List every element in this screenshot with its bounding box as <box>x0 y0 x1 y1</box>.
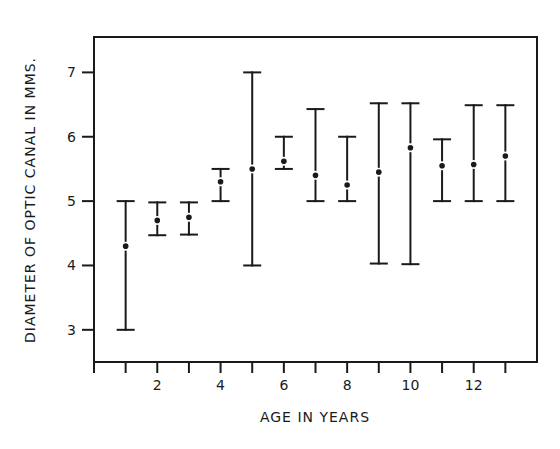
x-tick-label: 2 <box>153 377 162 393</box>
x-tick-label: 8 <box>343 377 352 393</box>
y-axis-title: DIAMETER OF OPTIC CANAL IN MMS. <box>22 57 38 343</box>
mean-marker <box>471 162 477 168</box>
error-bar <box>149 202 165 235</box>
x-axis-title: AGE IN YEARS <box>260 409 370 425</box>
error-bar <box>181 202 197 234</box>
y-tick-label: 4 <box>67 257 76 273</box>
x-tick-label: 12 <box>465 377 483 393</box>
mean-marker <box>218 179 224 185</box>
y-axis-ticks: 34567 <box>67 64 94 337</box>
mean-marker <box>439 163 445 169</box>
mean-marker <box>281 158 287 164</box>
mean-marker <box>249 166 255 172</box>
mean-marker <box>154 218 160 224</box>
error-bar <box>276 137 292 169</box>
mean-marker <box>123 243 129 249</box>
y-tick-label: 5 <box>67 193 76 209</box>
error-bar <box>118 201 134 330</box>
error-bar <box>371 103 387 263</box>
y-tick-label: 3 <box>67 322 76 338</box>
error-bar <box>339 137 355 201</box>
error-bar <box>434 139 450 201</box>
mean-marker <box>408 145 414 151</box>
error-bar <box>244 72 260 265</box>
x-tick-label: 6 <box>279 377 288 393</box>
x-tick-label: 10 <box>402 377 420 393</box>
mean-marker <box>313 173 319 179</box>
error-bar <box>213 169 229 201</box>
mean-marker <box>376 169 382 175</box>
mean-marker <box>344 182 350 188</box>
x-axis-ticks: 24681012 <box>126 362 506 393</box>
plot-frame <box>94 37 537 372</box>
error-bar <box>497 105 513 201</box>
mean-marker <box>186 214 192 220</box>
error-bar <box>308 109 324 201</box>
y-tick-label: 6 <box>67 129 76 145</box>
error-bars <box>118 72 514 329</box>
error-bar <box>402 103 418 264</box>
mean-marker <box>503 153 509 159</box>
y-tick-label: 7 <box>67 64 76 80</box>
x-tick-label: 4 <box>216 377 225 393</box>
error-bar <box>466 105 482 201</box>
error-bar-chart: 34567 24681012 AGE IN YEARS DIAMETER OF … <box>0 0 560 449</box>
